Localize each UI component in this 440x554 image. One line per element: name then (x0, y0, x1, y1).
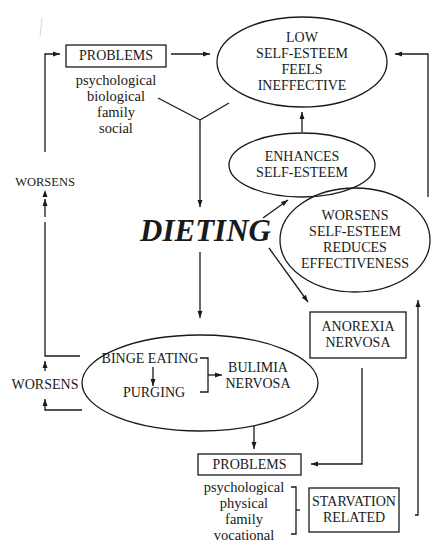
dieting-cycle-diagram: PROBLEMS psychological biological family… (0, 0, 440, 554)
worsens-self-esteem-line-1: WORSENS (280, 208, 430, 224)
low-self-esteem-line-2: SELF-ESTEEM (217, 46, 387, 62)
enhances-line-2: SELF-ESTEEM (229, 165, 375, 181)
purging-label: PURGING (118, 385, 190, 401)
worsens-self-esteem-line-3: REDUCES (280, 240, 430, 256)
bulimia-outcome-line-1: BULIMIA (222, 360, 294, 376)
problems-bottom-item-family: family (198, 511, 290, 527)
problems-top-item-family: family (66, 104, 166, 120)
starvation-line-2: RELATED (309, 510, 399, 526)
dieting-label: DIETING (140, 214, 264, 248)
binge-eating-label: BINGE EATING (100, 351, 200, 367)
low-self-esteem-line-4: INEFFECTIVE (217, 78, 387, 94)
low-self-esteem-line-1: LOW (217, 30, 387, 46)
problems-bottom-title: PROBLEMS (198, 457, 301, 473)
problems-bottom-item-physical: physical (198, 495, 290, 511)
anorexia-line-1: ANOREXIA (310, 319, 406, 335)
starvation-line-1: STARVATION (309, 494, 399, 510)
worsens-self-esteem-line-2: SELF-ESTEEM (280, 224, 430, 240)
worsens-left-upper-label: WORSENS (5, 174, 85, 190)
problems-top-item-psychological: psychological (66, 72, 166, 88)
problems-bottom-item-psychological: psychological (198, 479, 290, 495)
anorexia-line-2: NERVOSA (310, 335, 406, 351)
low-self-esteem-line-3: FEELS (217, 62, 387, 78)
problems-top-item-social: social (66, 120, 166, 136)
bulimia-outcome-line-2: NERVOSA (222, 376, 294, 392)
problems-top-title: PROBLEMS (66, 48, 166, 64)
worsens-self-esteem-line-4: EFFECTIVENESS (280, 256, 430, 272)
problems-bottom-item-vocational: vocational (198, 527, 290, 543)
enhances-line-1: ENHANCES (229, 149, 375, 165)
problems-top-item-biological: biological (66, 88, 166, 104)
worsens-left-lower-label: WORSENS (3, 377, 87, 393)
